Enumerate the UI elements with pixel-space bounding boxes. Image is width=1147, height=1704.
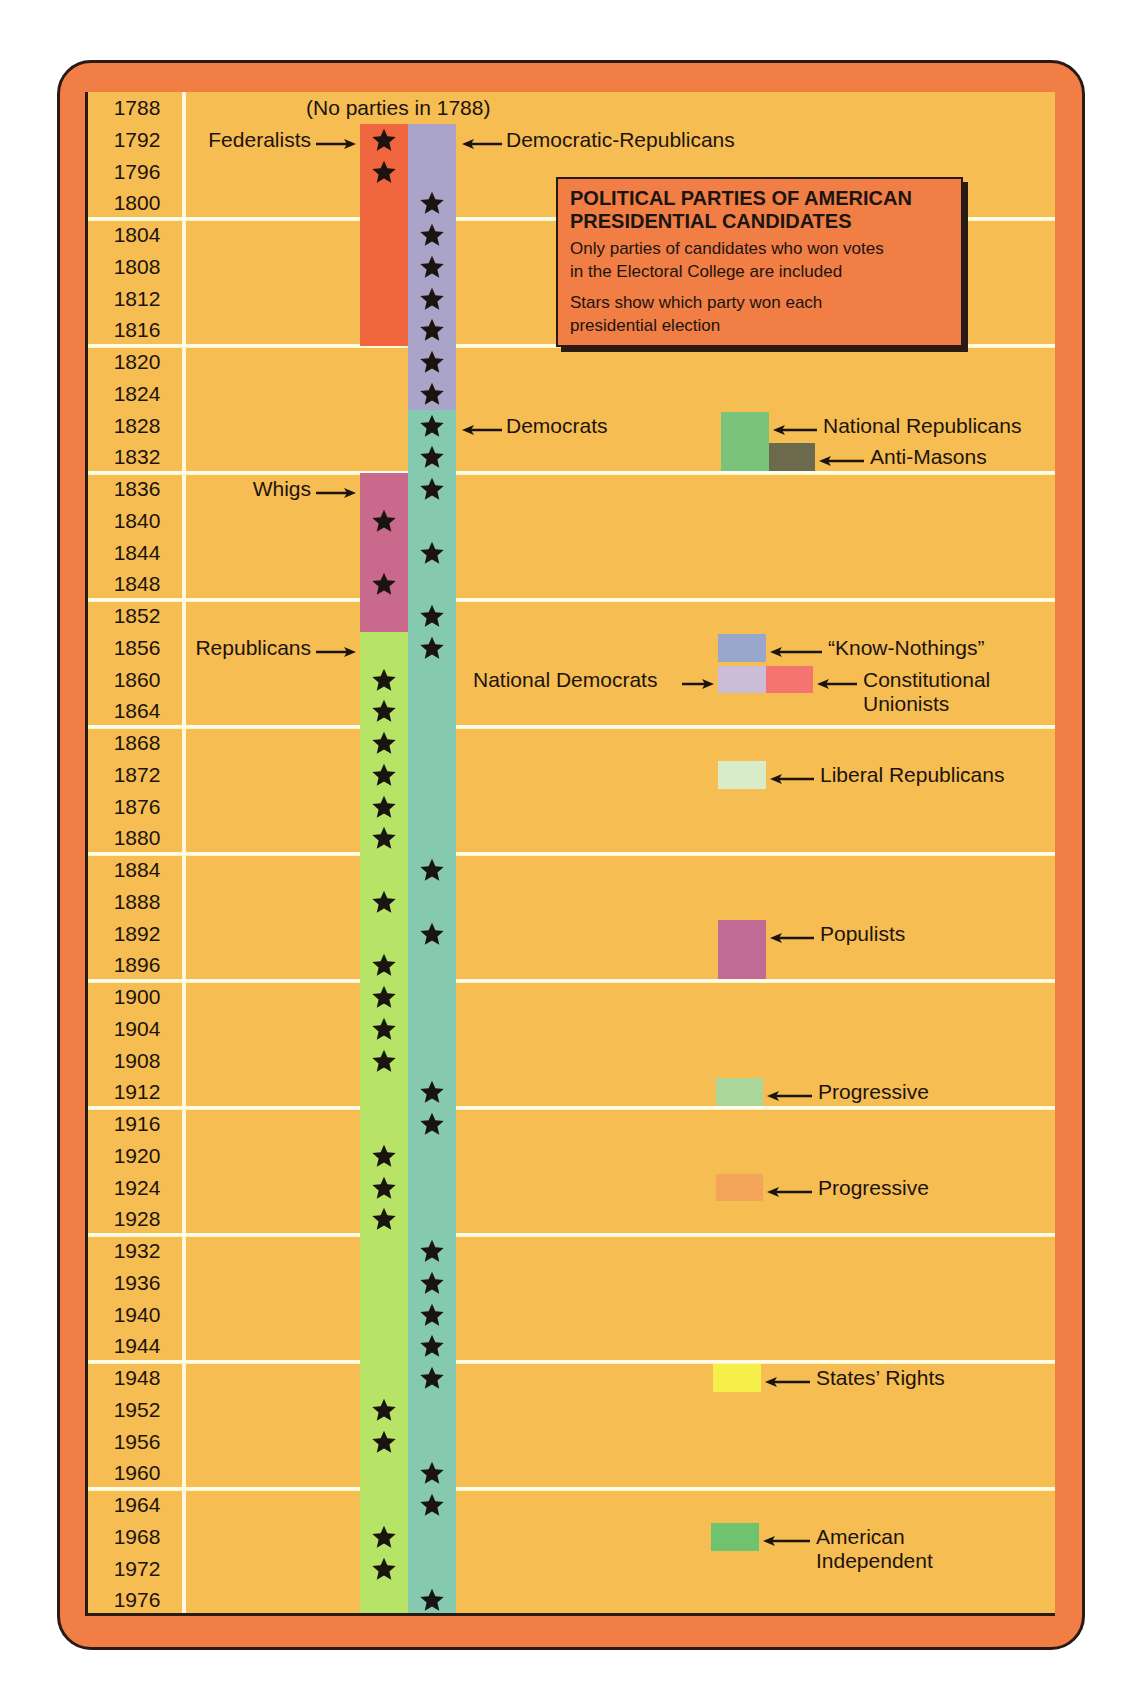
minor-party-label-states-rights: States’ Rights [816, 1366, 1016, 1390]
star-icon [371, 159, 397, 185]
row-group-separator [88, 1360, 1055, 1364]
star-icon [419, 222, 445, 248]
star-icon [419, 540, 445, 566]
year-label: 1840 [98, 509, 176, 533]
minor-party-box-progressive [716, 1174, 763, 1202]
minor-party-box-populists [718, 920, 766, 980]
year-label: 1816 [98, 318, 176, 342]
star-icon [371, 508, 397, 534]
star-icon [419, 1079, 445, 1105]
star-icon [419, 1111, 445, 1137]
minor-party-label-national-republicans: National Republicans [823, 414, 1023, 438]
year-label: 1864 [98, 699, 176, 723]
year-label: 1960 [98, 1461, 176, 1485]
minor-party-box-progressive [716, 1078, 763, 1106]
star-icon [419, 254, 445, 280]
chart-note: Stars show which party won each presiden… [570, 291, 949, 337]
star-icon [419, 476, 445, 502]
row-group-separator [88, 979, 1055, 983]
minor-party-label-populists: Populists [820, 922, 1020, 946]
chart-subtitle: Only parties of candidates who won votes… [570, 237, 949, 283]
star-icon [371, 952, 397, 978]
year-label: 1860 [98, 668, 176, 692]
star-icon [419, 381, 445, 407]
party-bar-whigs [360, 473, 408, 632]
row-group-separator [88, 1487, 1055, 1491]
star-icon [419, 1238, 445, 1264]
row-group-separator [88, 598, 1055, 602]
year-label: 1824 [98, 382, 176, 406]
year-label: 1844 [98, 541, 176, 565]
row-group-separator [88, 1233, 1055, 1237]
arrow-left-icon [765, 1373, 810, 1383]
star-icon [371, 889, 397, 915]
year-label: 1884 [98, 858, 176, 882]
party-label-republicans: Republicans [195, 636, 311, 660]
minor-party-box-american-independent [711, 1523, 759, 1551]
star-icon [371, 1397, 397, 1423]
arrow-right-icon [316, 643, 356, 653]
year-label: 1856 [98, 636, 176, 660]
arrow-left-icon [462, 421, 502, 431]
year-label: 1956 [98, 1430, 176, 1454]
star-icon [419, 317, 445, 343]
year-label: 1972 [98, 1557, 176, 1581]
star-icon [419, 444, 445, 470]
star-icon [371, 1175, 397, 1201]
chart-title-box: POLITICAL PARTIES OF AMERICAN PRESIDENTI… [556, 177, 963, 347]
arrow-right-icon [682, 675, 714, 685]
star-icon [419, 857, 445, 883]
star-icon [371, 730, 397, 756]
chart-subtitle-line-2: in the Electoral College are included [570, 260, 949, 283]
minor-party-label-national-democrats: National Democrats [473, 668, 657, 692]
arrow-right-icon [316, 484, 356, 494]
star-icon [419, 1587, 445, 1613]
row-group-separator [88, 471, 1055, 475]
year-label: 1804 [98, 223, 176, 247]
star-icon [371, 794, 397, 820]
row-group-separator [88, 852, 1055, 856]
year-label: 1932 [98, 1239, 176, 1263]
arrow-left-icon [819, 452, 864, 462]
star-icon [419, 603, 445, 629]
year-label: 1968 [98, 1525, 176, 1549]
year-label: 1916 [98, 1112, 176, 1136]
chart-subtitle-line-1: Only parties of candidates who won votes [570, 237, 949, 260]
year-label: 1920 [98, 1144, 176, 1168]
year-label: 1900 [98, 985, 176, 1009]
no-parties-note: (No parties in 1788) [306, 96, 490, 120]
star-icon [371, 984, 397, 1010]
minor-party-label-progressive: Progressive [818, 1176, 1018, 1200]
minor-party-label-american-independent: American Independent [816, 1525, 1016, 1573]
star-icon [371, 1206, 397, 1232]
minor-party-box-constitutional-unionists [766, 666, 813, 694]
minor-party-box-national-democrats [718, 666, 766, 694]
year-label: 1944 [98, 1334, 176, 1358]
star-icon [419, 1333, 445, 1359]
party-label-democratic-republicans: Democratic-Republicans [506, 128, 735, 152]
year-label: 1832 [98, 445, 176, 469]
star-icon [419, 190, 445, 216]
year-label: 1928 [98, 1207, 176, 1231]
star-icon [419, 1365, 445, 1391]
year-label: 1952 [98, 1398, 176, 1422]
year-label: 1924 [98, 1176, 176, 1200]
year-label: 1792 [98, 128, 176, 152]
minor-party-label-anti-masons: Anti-Masons [870, 445, 1055, 469]
star-icon [419, 635, 445, 661]
star-icon [419, 1302, 445, 1328]
star-icon [419, 349, 445, 375]
party-label-whigs: Whigs [253, 477, 311, 501]
star-icon [419, 921, 445, 947]
star-icon [371, 667, 397, 693]
year-label: 1812 [98, 287, 176, 311]
minor-party-box-know-nothings [718, 634, 766, 662]
star-icon [371, 1429, 397, 1455]
year-label: 1788 [98, 96, 176, 120]
star-icon [371, 1016, 397, 1042]
year-label: 1836 [98, 477, 176, 501]
party-label-federalists: Federalists [208, 128, 311, 152]
year-label: 1948 [98, 1366, 176, 1390]
minor-party-box-liberal-republicans [718, 761, 766, 789]
year-label: 1912 [98, 1080, 176, 1104]
